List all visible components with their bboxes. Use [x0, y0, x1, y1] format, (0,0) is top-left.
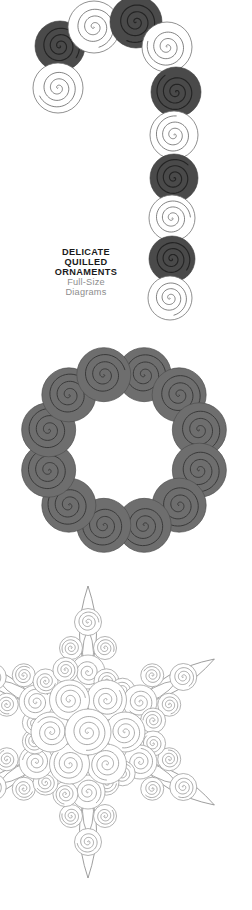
caption-block: DELICATE QUILLED ORNAMENTS Full-Size Dia…: [28, 248, 144, 298]
quilled-coil: [141, 664, 164, 687]
quilled-coil: [12, 777, 35, 800]
quilled-coil: [77, 348, 131, 402]
quilled-coil: [53, 657, 78, 682]
quilled-coil: [65, 709, 111, 755]
quilled-coil: [170, 664, 197, 691]
quilled-coil: [12, 664, 35, 687]
quilled-coil: [150, 111, 198, 159]
quilled-coil: [60, 637, 83, 660]
quilled-coil: [60, 805, 83, 828]
quilled-coil: [33, 63, 83, 113]
caption-line-5: Diagrams: [28, 288, 144, 298]
quilled-coil: [170, 774, 197, 801]
quilled-coil: [151, 67, 201, 117]
quilled-coil: [141, 777, 164, 800]
wreath-diagram: [0, 330, 252, 570]
snowflake-svg: [0, 560, 252, 910]
quilled-coil: [94, 805, 117, 828]
quilled-coil: [148, 276, 192, 320]
quilled-coil: [75, 609, 102, 636]
quilled-coil: [149, 195, 195, 241]
wreath-svg: [0, 330, 252, 570]
pattern-sheet: DELICATE QUILLED ORNAMENTS Full-Size Dia…: [0, 0, 252, 910]
snowflake-diagram: [0, 560, 252, 910]
quilled-coil: [94, 637, 117, 660]
quilled-coil: [75, 829, 102, 856]
quilled-coil: [149, 236, 195, 282]
quilled-coil: [142, 22, 192, 72]
